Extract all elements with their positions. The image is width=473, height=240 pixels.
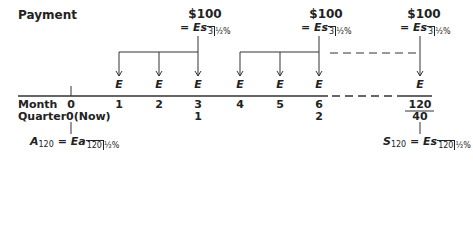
fv-n: 120 <box>437 140 455 150</box>
pv-rate: ½% <box>104 141 119 150</box>
fv-lhs-sub: 120 <box>391 140 406 149</box>
quarter-1: 1 <box>183 110 213 123</box>
pv-n: 120 <box>86 140 104 150</box>
fv-rate: ½% <box>455 141 470 150</box>
quarter-0: 0(Now) <box>66 110 111 123</box>
present-value-formula: A120 = Ea120½% <box>30 135 119 148</box>
pv-lhs-sub: 120 <box>39 140 54 149</box>
future-value-formula: S120 = Es120½% <box>383 135 471 148</box>
pv-main: Ea <box>71 135 86 148</box>
quarter-40: 40 <box>405 110 435 123</box>
fv-eq: = <box>406 135 423 148</box>
pv-lhs: A <box>30 135 39 148</box>
fv-main: Es <box>423 135 437 148</box>
quarter-row-label: Quarter <box>18 110 66 123</box>
pv-eq: = <box>54 135 71 148</box>
quarter-2: 2 <box>304 110 334 123</box>
fv-lhs: S <box>383 135 391 148</box>
